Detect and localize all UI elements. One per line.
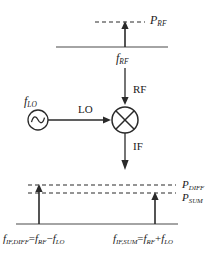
lo-source-sine-glyph [32,117,45,123]
rf-port-arrowhead [121,97,128,105]
rf-frequency-label-subscript: RF [119,57,128,66]
rf-frequency-axis-label: fRF [116,52,128,64]
if-port-label: IF [133,141,143,152]
p-sum-label-subscript: SUM [189,197,203,204]
lo-port-label: LO [78,104,93,115]
lo-frequency-label: fLO [24,95,37,107]
if-spectrum-group [16,184,178,224]
if-diff-frequency-formula: fIF,DIFF=fRF−fLO [3,233,64,244]
diff-formula-rhs1-subscript: RF [38,238,46,245]
rf-power-label-subscript: RF [157,19,166,28]
p-diff-label-subscript: DIFF [189,184,205,191]
rf-tone-arrowhead [121,21,128,29]
p-sum-label: PSUM [182,192,203,203]
lo-frequency-label-subscript: LO [27,100,37,109]
sum-formula-rhs1-subscript: RF [147,238,155,245]
mixer-frequency-diagram: PRF fRF fLO LO RF IF PDIFF PSUM fIF,DIFF… [0,0,209,260]
diff-formula-rhs2-subscript: LO [56,238,65,245]
sum-formula-lhs-subscript: IF,SUM [116,238,137,245]
p-diff-label: PDIFF [182,179,204,190]
p-sum-label-base: P [182,191,189,203]
rf-power-label: PRF [150,14,166,26]
p-diff-label-base: P [182,178,189,190]
rf-port-label: RF [133,84,146,95]
diagram-vector-canvas [0,0,209,260]
mixer-block-group [28,68,138,170]
diff-formula-lhs-subscript: IF,DIFF [6,238,29,245]
lo-port-arrowhead [103,116,111,123]
if-port-arrowhead [121,160,128,170]
if-sum-frequency-formula: fIF,SUM=fRF+fLO [113,233,173,244]
sum-formula-rhs2-subscript: LO [164,238,173,245]
